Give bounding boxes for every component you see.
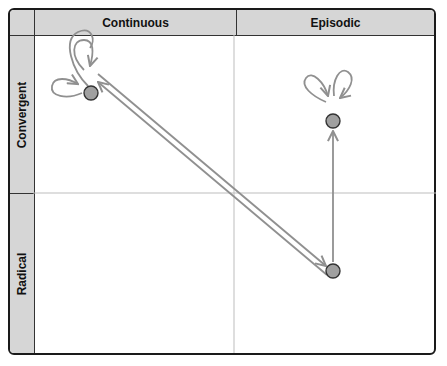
episodic-loop-left	[304, 75, 328, 102]
node-episodic-radical[interactable]	[326, 264, 340, 278]
episodic-loop-right	[334, 71, 352, 98]
node-episodic-convergent[interactable]	[326, 114, 340, 128]
continuous-loop-top	[74, 40, 92, 70]
diagram-canvas	[0, 0, 447, 366]
edge-radical-to-continuous	[98, 82, 327, 275]
node-continuous-convergent[interactable]	[84, 86, 98, 100]
self-loop-continuous-top	[70, 31, 93, 86]
continuous-loop-left	[52, 79, 82, 97]
edge-continuous-to-radical	[98, 74, 326, 266]
